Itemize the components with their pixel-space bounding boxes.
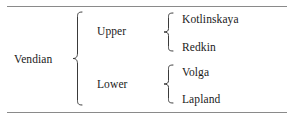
table-top-rule [7, 6, 287, 7]
hierarchy-root-label: Vendian [14, 53, 52, 66]
hierarchy-level2-label-lower: Lower [97, 78, 128, 91]
hierarchy-leaf-label-lapland: Lapland [182, 93, 220, 106]
curly-brace-icon [72, 11, 84, 106]
hierarchy-level2-label-upper: Upper [97, 25, 126, 38]
hierarchy-leaf-label-volga: Volga [182, 66, 209, 79]
hierarchy-leaf-label-redkin: Redkin [182, 41, 216, 54]
curly-brace-icon [163, 12, 175, 52]
curly-brace-icon [163, 64, 175, 104]
table-bottom-rule [7, 112, 287, 113]
hierarchy-leaf-label-kotlinskaya: Kotlinskaya [182, 13, 239, 26]
stratigraphic-hierarchy-figure: Vendian Upper Lower Kotlinskaya Redkin V… [0, 0, 293, 119]
